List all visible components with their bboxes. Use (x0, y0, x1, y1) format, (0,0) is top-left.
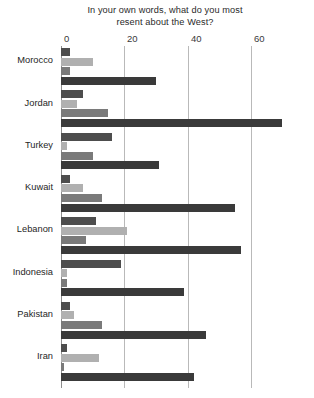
bar-iran-series-1 (61, 344, 67, 352)
bar-jordan-series-2 (61, 100, 77, 108)
bar-lebanon-series-4 (61, 246, 241, 254)
bar-pakistan-series-3 (61, 321, 102, 329)
category-label-lebanon: Lebanon (17, 224, 53, 234)
bar-morocco-series-4 (61, 77, 156, 85)
category-label-jordan: Jordan (25, 98, 53, 108)
bar-turkey-series-2 (61, 142, 67, 150)
bar-chart: In your own words, what do you most rese… (0, 0, 314, 398)
bar-group-iran (61, 344, 314, 382)
bar-morocco-series-3 (61, 67, 70, 75)
bar-indonesia-series-4 (61, 288, 184, 296)
bar-indonesia-series-1 (61, 260, 121, 268)
bar-group-morocco (61, 48, 314, 86)
bar-turkey-series-4 (61, 161, 159, 169)
bar-turkey-series-1 (61, 133, 112, 141)
category-label-indonesia: Indonesia (13, 267, 53, 277)
x-tick-label-0: 0 (64, 33, 69, 44)
bar-group-pakistan (61, 302, 314, 340)
category-label-kuwait: Kuwait (25, 182, 53, 192)
bar-jordan-series-1 (61, 90, 83, 98)
x-tick-label-60: 60 (254, 33, 265, 44)
bar-kuwait-series-1 (61, 175, 70, 183)
category-label-turkey: Turkey (25, 140, 53, 150)
category-label-morocco: Morocco (17, 55, 53, 65)
bar-lebanon-series-1 (61, 217, 96, 225)
bar-turkey-series-3 (61, 152, 93, 160)
bar-group-turkey (61, 133, 314, 171)
x-tick-label-20: 20 (127, 33, 138, 44)
chart-title-line-1: In your own words, what do you most (40, 4, 290, 16)
bar-lebanon-series-3 (61, 236, 86, 244)
bar-kuwait-series-3 (61, 194, 102, 202)
plot-area (61, 46, 314, 388)
y-axis-category-labels: MoroccoJordanTurkeyKuwaitLebanonIndonesi… (0, 46, 57, 388)
category-label-iran: Iran (37, 351, 53, 361)
bar-group-kuwait (61, 175, 314, 213)
bar-indonesia-series-3 (61, 279, 67, 287)
bar-group-jordan (61, 90, 314, 128)
bar-morocco-series-2 (61, 58, 93, 66)
bar-iran-series-2 (61, 354, 99, 362)
chart-title-line-2: resent about the West? (40, 16, 290, 28)
bar-indonesia-series-2 (61, 269, 67, 277)
bar-iran-series-3 (61, 363, 64, 371)
x-axis-tick-labels: 020406080 (61, 33, 314, 46)
bar-lebanon-series-2 (61, 227, 127, 235)
chart-title: In your own words, what do you most rese… (40, 4, 290, 28)
bar-morocco-series-1 (61, 48, 70, 56)
bar-kuwait-series-2 (61, 184, 83, 192)
bar-pakistan-series-4 (61, 331, 206, 339)
bar-group-lebanon (61, 217, 314, 255)
bar-kuwait-series-4 (61, 204, 235, 212)
bar-jordan-series-3 (61, 109, 108, 117)
bar-pakistan-series-1 (61, 302, 70, 310)
bar-pakistan-series-2 (61, 311, 74, 319)
bar-iran-series-4 (61, 373, 194, 381)
bar-group-indonesia (61, 260, 314, 298)
bar-jordan-series-4 (61, 119, 282, 127)
x-tick-label-40: 40 (191, 33, 202, 44)
category-label-pakistan: Pakistan (17, 309, 53, 319)
